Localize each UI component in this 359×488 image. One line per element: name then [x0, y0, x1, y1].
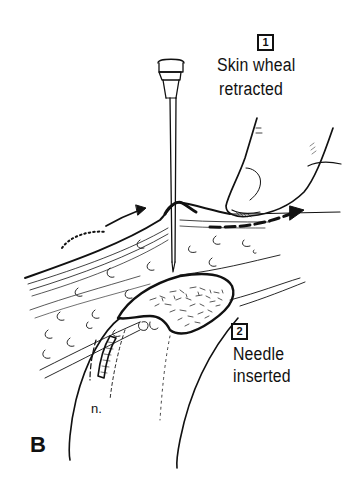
finger: [226, 118, 341, 217]
retraction-arrow-dashed: [210, 206, 304, 227]
step-2-label-line2: inserted: [233, 366, 291, 387]
skin-shift-arrow: [106, 205, 146, 226]
syringe-hub: [158, 59, 184, 98]
tendon: [69, 318, 238, 468]
step-2-label-line1: Needle: [233, 344, 284, 365]
step-2-badge: 2: [231, 323, 248, 340]
needle: [170, 98, 176, 272]
skin-surface: [25, 202, 340, 318]
nerve: [90, 336, 116, 380]
target-sac: [118, 274, 233, 333]
original-position-dotted: [62, 232, 106, 248]
step-1-label-line1: Skin wheal: [217, 55, 295, 76]
nerve-label: n.: [91, 401, 102, 416]
illustration: [0, 0, 359, 488]
panel-letter: B: [30, 432, 46, 458]
step-1-badge: 1: [257, 34, 274, 51]
step-1-label-line2: retracted: [219, 79, 283, 100]
subcutaneous-fat: [43, 236, 256, 358]
